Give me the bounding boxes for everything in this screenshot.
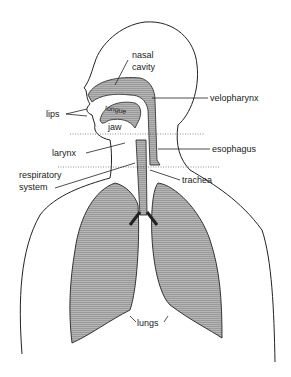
- label-esophagus: esophagus: [212, 144, 256, 154]
- label-lungs: lungs: [137, 318, 159, 328]
- left-lung: [70, 183, 139, 343]
- label-trachea: trachea: [182, 175, 212, 185]
- right-lung: [152, 183, 222, 338]
- label-respiratory: respiratory: [19, 170, 62, 180]
- label-cavity: cavity: [132, 62, 155, 72]
- label-jaw: jaw: [108, 122, 122, 132]
- body-outline: [20, 22, 275, 362]
- label-system: system: [19, 182, 48, 192]
- label-larynx: larynx: [52, 148, 76, 158]
- label-lips: lips: [46, 109, 60, 119]
- label-velopharynx: velopharynx: [210, 93, 259, 103]
- label-nasal: nasal: [132, 50, 154, 60]
- nasal-cavity-shape: [88, 78, 160, 165]
